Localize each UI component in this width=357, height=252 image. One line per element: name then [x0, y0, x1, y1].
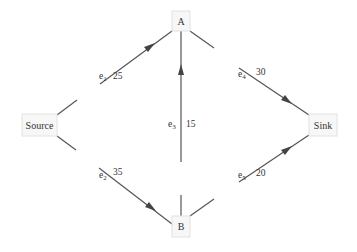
node-a: A — [172, 11, 190, 31]
edge-e3-capacity: 15 — [186, 119, 196, 129]
edge-e2-sub: 2 — [103, 174, 107, 182]
node-a-label: A — [177, 16, 185, 27]
edge-e4-sub: 4 — [242, 73, 246, 81]
edge-e5: e5 20 — [190, 135, 309, 216]
edge-e3: e3 15 — [168, 31, 196, 216]
node-source-label: Source — [26, 120, 54, 131]
edge-e2-capacity: 35 — [113, 167, 123, 177]
edge-e4: e4 30 — [190, 31, 309, 115]
edge-e4-capacity: 30 — [256, 67, 266, 77]
flow-network-diagram: e1 25 e2 35 e3 15 e4 30 e5 20 Source — [0, 0, 357, 252]
edge-e1-sub: 1 — [103, 75, 107, 83]
arrowhead-icon — [145, 202, 156, 211]
edge-e3-sub: 3 — [172, 123, 176, 131]
node-b: B — [172, 216, 190, 237]
svg-text:e2: e2 — [99, 170, 107, 182]
edge-e5-sub: 5 — [242, 174, 246, 182]
edge-e2: e2 35 — [57, 136, 172, 224]
svg-text:e4: e4 — [238, 69, 246, 81]
svg-text:e5: e5 — [238, 170, 246, 182]
arrowhead-icon — [178, 64, 184, 75]
node-sink: Sink — [309, 114, 337, 136]
svg-text:e1: e1 — [99, 71, 107, 83]
svg-text:e3: e3 — [168, 119, 176, 131]
edge-e5-capacity: 20 — [256, 168, 266, 178]
edge-e1-capacity: 25 — [113, 71, 123, 81]
edge-e1: e1 25 — [57, 31, 172, 115]
node-source: Source — [22, 114, 57, 136]
arrowhead-icon — [281, 95, 292, 104]
node-sink-label: Sink — [314, 120, 332, 131]
node-b-label: B — [178, 221, 185, 232]
arrowhead-icon — [281, 146, 292, 155]
